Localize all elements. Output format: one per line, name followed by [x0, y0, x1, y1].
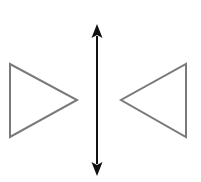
arrowhead-up-icon: [92, 24, 103, 38]
arrowhead-down-icon: [92, 162, 103, 176]
mirror-axis-double-arrow-icon: [92, 24, 103, 176]
right-triangle: [121, 64, 186, 137]
left-triangle: [10, 64, 77, 137]
symmetry-diagram: [0, 0, 201, 182]
diagram-svg: [0, 0, 201, 182]
